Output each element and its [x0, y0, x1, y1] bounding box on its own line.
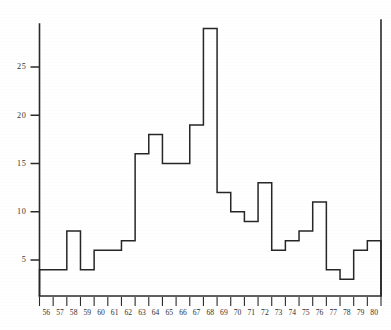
x-tick-label-69: 69: [220, 308, 228, 317]
y-tick-labels: 510152025: [17, 62, 26, 264]
x-tick-label-79: 79: [357, 308, 365, 317]
x-tick-label-71: 71: [247, 308, 255, 317]
x-tick-labels: 5657585960616263646566676869707172737475…: [43, 308, 379, 317]
x-tick-label-72: 72: [261, 308, 269, 317]
x-tick-label-74: 74: [288, 308, 296, 317]
x-tick-label-64: 64: [152, 308, 160, 317]
x-tick-label-67: 67: [193, 308, 201, 317]
x-tick-label-63: 63: [138, 308, 146, 317]
y-axis: [31, 24, 40, 296]
x-tick-label-76: 76: [316, 308, 324, 317]
x-tick-label-66: 66: [179, 308, 187, 317]
chart-canvas: 510152025 565758596061626364656667686970…: [0, 0, 391, 330]
y-tick-label-20: 20: [17, 111, 26, 120]
data-series-step: [40, 28, 382, 296]
plot-area: 510152025 565758596061626364656667686970…: [17, 20, 381, 317]
x-tick-label-61: 61: [111, 308, 119, 317]
x-tick-label-70: 70: [234, 308, 242, 317]
x-tick-label-80: 80: [370, 308, 378, 317]
x-tick-label-58: 58: [70, 308, 78, 317]
x-tick-label-73: 73: [275, 308, 283, 317]
x-tick-label-78: 78: [343, 308, 351, 317]
x-tick-label-56: 56: [43, 308, 51, 317]
x-tick-label-62: 62: [124, 308, 132, 317]
x-tick-label-57: 57: [56, 308, 64, 317]
x-tick-label-65: 65: [165, 308, 173, 317]
x-axis: [40, 20, 382, 306]
y-tick-label-25: 25: [17, 62, 26, 71]
y-tick-label-10: 10: [17, 207, 26, 216]
step-series-path: [40, 28, 382, 296]
x-tick-label-75: 75: [302, 308, 310, 317]
x-tick-label-68: 68: [206, 308, 214, 317]
x-tick-label-60: 60: [97, 308, 105, 317]
x-tick-label-59: 59: [84, 308, 92, 317]
y-tick-label-5: 5: [22, 255, 27, 264]
y-tick-label-15: 15: [17, 159, 26, 168]
x-tick-label-77: 77: [329, 308, 337, 317]
chart-figure: 510152025 565758596061626364656667686970…: [0, 0, 391, 330]
